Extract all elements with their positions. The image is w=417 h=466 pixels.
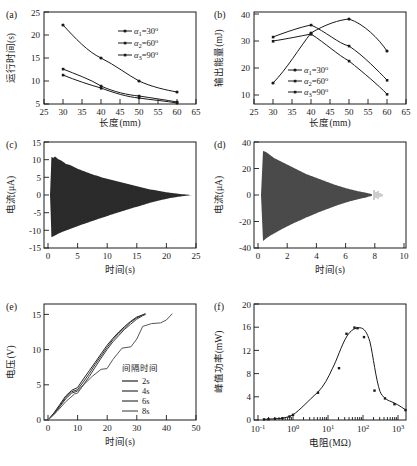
panel-a-xtick-45: 45 bbox=[116, 107, 126, 117]
panel-c-xtick-15: 15 bbox=[132, 251, 142, 261]
panel-d-ytick-20: 20 bbox=[242, 164, 252, 174]
panel-c-yticks bbox=[44, 142, 49, 248]
panel-d-ytick--20: -20 bbox=[239, 217, 251, 227]
panel-c-waveform bbox=[50, 157, 192, 238]
panel-e-xticks bbox=[48, 415, 196, 420]
panel-c-xtick-5: 5 bbox=[75, 251, 80, 261]
panel-d-xtick-4: 4 bbox=[314, 251, 319, 261]
panel-f-ytick-8: 8 bbox=[247, 369, 252, 379]
figure-container: (a) 5 10 15 20 25 bbox=[0, 0, 417, 466]
panel-b-ytick-20: 20 bbox=[241, 63, 251, 73]
panel-f-markers bbox=[263, 326, 407, 420]
panel-f-ytick-4: 4 bbox=[247, 392, 252, 402]
panel-b-ytick-30: 30 bbox=[241, 36, 251, 46]
panel-a-xtick-30: 30 bbox=[59, 107, 69, 117]
panel-b-xtick-35: 35 bbox=[288, 107, 298, 117]
panel-a-frame bbox=[44, 12, 196, 104]
panel-e-ytick-5: 5 bbox=[37, 380, 42, 390]
panel-f-plot: (f) 0 4 8 12 16 20 bbox=[208, 280, 417, 466]
panel-d-yticks bbox=[254, 142, 259, 248]
panel-e-legend-item-2s: 2s bbox=[142, 376, 150, 386]
panel-f-frame bbox=[254, 304, 406, 420]
panel-b-xtick-55: 55 bbox=[364, 107, 374, 117]
panel-e-ytick-0: 0 bbox=[37, 415, 42, 425]
panel-e-legend-item-4s: 4s bbox=[142, 386, 150, 396]
panel-a-plot: (a) 5 10 15 20 25 bbox=[0, 0, 208, 128]
panel-f-xtick-1: 10-1 bbox=[251, 423, 265, 434]
panel-d-ylabel: 电流(μA) bbox=[213, 176, 225, 214]
panel-b-ytick-40: 40 bbox=[241, 10, 251, 20]
panel-b-plot: (b) 10 20 30 40 25 bbox=[208, 0, 417, 128]
panel-c-ytick-15: 15 bbox=[32, 138, 42, 148]
panel-d-ytick-0: 0 bbox=[247, 190, 252, 200]
panel-a-ylabel: 运行时间(s) bbox=[5, 33, 17, 83]
panel-d-xtick-8: 8 bbox=[373, 251, 378, 261]
panel-a: (a) 5 10 15 20 25 bbox=[0, 0, 208, 128]
panel-f: (f) 0 4 8 12 16 20 bbox=[208, 280, 417, 466]
panel-e-xtick-30: 30 bbox=[132, 423, 142, 433]
panel-f-xtick-2: 100 bbox=[287, 423, 299, 434]
panel-d-waveform bbox=[261, 151, 372, 241]
panel-a-xtick-40: 40 bbox=[97, 107, 107, 117]
panel-c-xlabel-text: 时间(s) bbox=[105, 264, 135, 276]
panel-b-legend: α1=30o α2=60o α3=90o bbox=[288, 64, 328, 98]
panel-c-xtick-20: 20 bbox=[162, 251, 172, 261]
panel-a-ytick-20: 20 bbox=[31, 30, 41, 40]
panel-b: (b) 10 20 30 40 25 bbox=[208, 0, 417, 128]
panel-c-tag: (c) bbox=[6, 139, 17, 151]
panel-e-xtick-20: 20 bbox=[103, 423, 113, 433]
panel-d-tag: (d) bbox=[214, 139, 226, 151]
panel-d-xtick-6: 6 bbox=[343, 251, 348, 261]
panel-f-tag: (f) bbox=[214, 301, 224, 313]
panel-a-xtick-55: 55 bbox=[154, 107, 164, 117]
panel-e-xlabel: 时间(s) bbox=[105, 436, 135, 448]
panel-c-ytick--10: -10 bbox=[29, 226, 41, 236]
panel-e-ylabel: 电压(V) bbox=[5, 345, 17, 378]
panel-d-xtick-0: 0 bbox=[256, 251, 261, 261]
panel-e-tag: (e) bbox=[6, 301, 17, 313]
panel-c-xtick-10: 10 bbox=[103, 251, 113, 261]
panel-b-ylabel: 输出能量(mJ) bbox=[213, 29, 225, 86]
panel-e-ytick-15: 15 bbox=[32, 310, 42, 320]
panel-e: (e) 0 5 10 15 0 10 20 30 40 50 时间(s) 电压(… bbox=[0, 280, 208, 466]
panel-e-xtick-0: 0 bbox=[46, 423, 51, 433]
panel-b-yticks bbox=[254, 14, 259, 95]
panel-c-ytick--5: -5 bbox=[34, 208, 42, 218]
panel-c-xticks bbox=[48, 243, 196, 248]
panel-a-legend-item-3: α3=90o bbox=[134, 49, 158, 61]
panel-e-xtick-50: 50 bbox=[192, 423, 202, 433]
panel-b-xtick-40: 40 bbox=[307, 107, 317, 117]
panel-c-ytick-0: 0 bbox=[37, 190, 42, 200]
panel-c: (c) -15 -5 0 5 10 15 -10 0 5 10 15 bbox=[0, 128, 208, 280]
panel-b-xtick-45: 45 bbox=[326, 107, 336, 117]
panel-c-xtick-25: 25 bbox=[192, 251, 202, 261]
panel-f-ylabel: 峰值功率(mW) bbox=[213, 331, 225, 394]
panel-f-curve bbox=[264, 328, 406, 420]
panel-e-frame bbox=[44, 304, 196, 420]
panel-f-ytick-12: 12 bbox=[242, 346, 251, 356]
panel-c-ytick-10: 10 bbox=[32, 155, 42, 165]
panel-c-plot: (c) -15 -5 0 5 10 15 -10 0 5 10 15 bbox=[0, 128, 208, 280]
panel-d: (d) -40 -20 0 20 40 0 2 4 6 8 10 时间(s) bbox=[208, 128, 417, 280]
panel-a-legend-item-2: α2=60o bbox=[134, 37, 158, 49]
panel-c-xtick-0: 0 bbox=[46, 251, 51, 261]
panel-f-yticks bbox=[254, 304, 259, 420]
panel-c-ytick-5: 5 bbox=[37, 173, 42, 183]
panel-b-xtick-65: 65 bbox=[402, 107, 412, 117]
panel-e-xtick-40: 40 bbox=[162, 423, 172, 433]
panel-b-series-2 bbox=[273, 25, 387, 80]
panel-a-xtick-35: 35 bbox=[78, 107, 88, 117]
panel-b-markers bbox=[271, 17, 388, 95]
panel-b-series-1 bbox=[273, 19, 387, 83]
panel-c-ytick--15: -15 bbox=[29, 243, 41, 253]
panel-d-ytick-40: 40 bbox=[242, 138, 252, 148]
panel-d-ytick--40: -40 bbox=[239, 243, 251, 253]
panel-a-xtick-50: 50 bbox=[135, 107, 145, 117]
panel-a-xlabel: 长度(mm) bbox=[99, 117, 140, 128]
panel-b-xtick-25: 25 bbox=[250, 107, 260, 117]
panel-d-xtick-2: 2 bbox=[285, 251, 290, 261]
panel-d-plot: (d) -40 -20 0 20 40 0 2 4 6 8 10 时间(s) bbox=[208, 128, 417, 280]
panel-f-xtick-3: 101 bbox=[322, 423, 334, 434]
panel-b-legend-item-3: α3=90o bbox=[304, 86, 328, 98]
panel-d-xticks bbox=[258, 243, 404, 248]
